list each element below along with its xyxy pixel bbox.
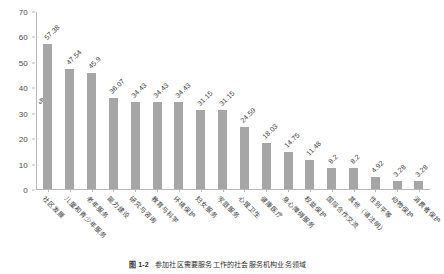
- bar-value-label: 11.48: [305, 140, 322, 157]
- x-label-slot: 健康医疗: [255, 192, 277, 250]
- bar-slot: 31.15: [212, 12, 234, 189]
- x-label-slot: 教育与科学: [146, 192, 168, 250]
- bar: [327, 168, 336, 189]
- bar-slot: 34.43: [146, 12, 168, 189]
- bar-slot: 47.54: [59, 12, 81, 189]
- bar-slot: 45.9: [81, 12, 103, 189]
- bar: [218, 110, 227, 189]
- y-axis-ticks: 706050403020100: [2, 12, 32, 190]
- x-label-slot: 权益保护: [299, 192, 321, 250]
- y-axis-tick-mark: [32, 12, 35, 13]
- y-axis-tick-label: 20: [19, 135, 28, 144]
- bar: [240, 127, 249, 189]
- bar: [284, 152, 293, 189]
- bar-slot: 3.28: [386, 12, 408, 189]
- x-label-slot: 研究与咨询: [124, 192, 146, 250]
- bar: [349, 168, 358, 189]
- bar-slot: 11.48: [299, 12, 321, 189]
- bar-slot: 3.28: [408, 12, 430, 189]
- x-axis-line: [36, 189, 430, 190]
- x-label-slot: 妇女服务: [190, 192, 212, 250]
- bar-slot: 57.38: [37, 12, 59, 189]
- y-axis-tick-label: 30: [19, 109, 28, 118]
- chart-plot-area: % 706050403020100 57.3847.5445.936.0734.…: [36, 12, 430, 190]
- bar-value-label: 8.2: [327, 153, 339, 165]
- y-axis-tick-mark: [32, 190, 35, 191]
- x-axis-category-label: 消费者保护: [412, 193, 444, 225]
- caption-label: 图 1-2: [129, 261, 149, 268]
- x-label-slot: 环境保护: [168, 192, 190, 250]
- bar-value-label: 45.9: [87, 55, 102, 70]
- x-label-slot: 身心障碍服务: [277, 192, 299, 250]
- bar-slot: 4.92: [364, 12, 386, 189]
- bar: [262, 143, 271, 189]
- figure-caption: 图 1-2参加社区需要服务工作的社会服务机构业务领域: [0, 259, 435, 269]
- y-axis-tick-mark: [32, 37, 35, 38]
- bar: [153, 102, 162, 189]
- bar: [414, 181, 423, 189]
- bar-slot: 31.15: [190, 12, 212, 189]
- bar: [393, 181, 402, 189]
- y-axis-tick-mark: [32, 139, 35, 140]
- x-label-slot: 家庭服务: [212, 192, 234, 250]
- bar-value-label: 4.92: [370, 159, 385, 174]
- y-axis-tick-label: 0: [23, 186, 28, 195]
- bar-slot: 34.43: [168, 12, 190, 189]
- bar-slot: 18.03: [255, 12, 277, 189]
- x-label-slot: 其他（请注明）: [343, 192, 365, 250]
- bar-slot: 34.43: [124, 12, 146, 189]
- y-axis-tick-label: 10: [19, 160, 28, 169]
- bar: [109, 98, 118, 189]
- x-label-slot: 国际合作交流: [321, 192, 343, 250]
- caption-text: 参加社区需要服务工作的社会服务机构业务领域: [155, 261, 306, 268]
- bar-slot: 24.59: [233, 12, 255, 189]
- x-label-slot: 动物保护: [386, 192, 408, 250]
- x-label-slot: 儿童和青少年服务: [59, 192, 81, 250]
- bar-slot: 14.75: [277, 12, 299, 189]
- bar: [131, 102, 140, 189]
- x-axis-category-labels: 社区发展儿童和青少年服务老年服务能力建设研究与咨询教育与科学环境保护妇女服务家庭…: [37, 192, 430, 250]
- bar-slot: 36.07: [102, 12, 124, 189]
- y-axis-tick-mark: [32, 164, 35, 165]
- y-axis-tick-label: 70: [19, 8, 28, 17]
- x-label-slot: 能力建设: [102, 192, 124, 250]
- y-axis-tick-mark: [32, 88, 35, 89]
- bar: [305, 160, 314, 189]
- x-label-slot: 消费者保护: [408, 192, 430, 250]
- bar-slot: 8.2: [343, 12, 365, 189]
- x-label-slot: 心理卫生: [233, 192, 255, 250]
- y-axis-tick-mark: [32, 62, 35, 63]
- y-axis-tick-mark: [32, 113, 35, 114]
- bar: [87, 73, 96, 189]
- bar-value-label: 3.28: [414, 163, 429, 178]
- bar: [174, 102, 183, 189]
- bar: [196, 110, 205, 189]
- y-axis-tick-label: 40: [19, 84, 28, 93]
- x-label-slot: 老年服务: [81, 192, 103, 250]
- x-label-slot: 社区发展: [37, 192, 59, 250]
- bar-value-label: 3.28: [392, 163, 407, 178]
- bar-slot: 8.2: [321, 12, 343, 189]
- x-label-slot: 性别平等: [364, 192, 386, 250]
- bar: [43, 44, 52, 189]
- y-axis-tick-label: 50: [19, 58, 28, 67]
- bar-series: 57.3847.5445.936.0734.4334.4334.4331.153…: [37, 12, 430, 189]
- y-axis-tick-label: 60: [19, 33, 28, 42]
- bar: [65, 69, 74, 189]
- bar-value-label: 8.2: [349, 153, 361, 165]
- bar: [371, 177, 380, 189]
